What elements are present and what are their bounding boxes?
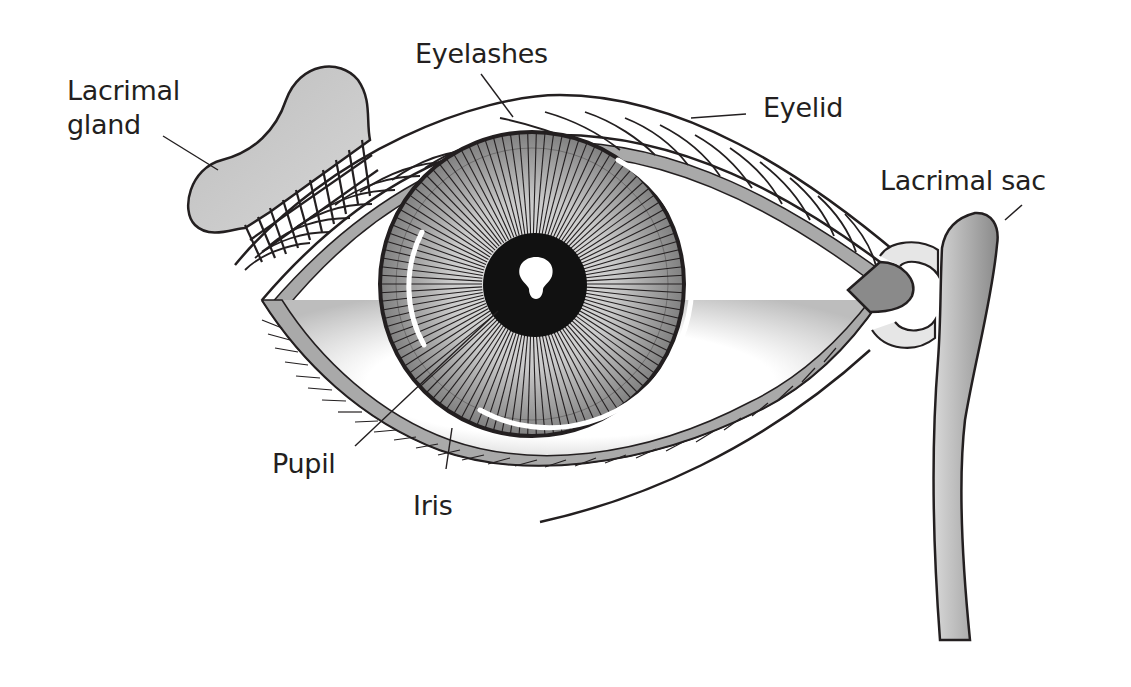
label-pupil: Pupil <box>272 448 336 480</box>
lacrimal-sac-shape <box>848 205 1022 640</box>
label-lacrimal-sac: Lacrimal sac <box>880 165 1046 197</box>
label-eyelashes: Eyelashes <box>415 38 548 70</box>
label-eyelid: Eyelid <box>763 92 843 124</box>
eye-diagram: Lacrimal gland Eyelashes Eyelid Lacrimal… <box>0 0 1131 687</box>
label-iris: Iris <box>413 490 452 522</box>
label-lacrimal-gland: Lacrimal gland <box>67 74 180 142</box>
pupil-shape <box>483 233 587 337</box>
